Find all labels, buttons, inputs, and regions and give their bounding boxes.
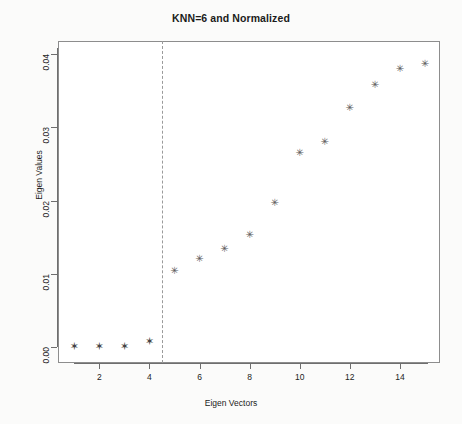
data-point: ✳ xyxy=(370,80,379,89)
x-tick-1 xyxy=(149,363,150,369)
x-tick-5 xyxy=(350,363,351,369)
data-point: ✶ xyxy=(120,342,129,351)
x-tick-label-1: 4 xyxy=(134,372,164,382)
x-tick-label-6: 14 xyxy=(385,372,415,382)
y-tick-label-2: 0.02 xyxy=(40,201,52,247)
data-point: ✳ xyxy=(245,230,254,239)
data-point: ✶ xyxy=(70,342,79,351)
y-tick-label-0: 0.00 xyxy=(40,347,52,393)
data-point: ✳ xyxy=(420,59,429,68)
chart-title: KNN=6 and Normalized xyxy=(0,12,462,24)
y-axis-title: Eigen Values xyxy=(34,150,44,199)
x-tick-label-3: 8 xyxy=(235,372,265,382)
x-axis-line xyxy=(74,363,428,364)
data-point: ✳ xyxy=(220,244,229,253)
x-tick-label-5: 12 xyxy=(335,372,365,382)
data-point: ✳ xyxy=(345,103,354,112)
data-point: ✶ xyxy=(95,342,104,351)
x-tick-0 xyxy=(99,363,100,369)
x-tick-2 xyxy=(200,363,201,369)
eigengap-threshold-line xyxy=(162,41,163,363)
x-tick-3 xyxy=(250,363,251,369)
y-tick-label-4: 0.04 xyxy=(40,54,52,100)
data-point: ✳ xyxy=(395,64,404,73)
x-tick-label-4: 10 xyxy=(285,372,315,382)
chart-figure: KNN=6 and Normalized 0.000.010.020.030.0… xyxy=(0,0,462,424)
data-point: ✳ xyxy=(195,254,204,263)
data-point: ✳ xyxy=(320,137,329,146)
data-point: ✳ xyxy=(170,266,179,275)
x-tick-label-2: 6 xyxy=(185,372,215,382)
x-axis-title: Eigen Vectors xyxy=(0,398,462,408)
y-tick-label-1: 0.01 xyxy=(40,274,52,320)
y-axis-line xyxy=(57,48,58,347)
x-tick-6 xyxy=(400,363,401,369)
x-tick-4 xyxy=(300,363,301,369)
data-point: ✶ xyxy=(145,337,154,346)
x-tick-label-0: 2 xyxy=(84,372,114,382)
data-point: ✳ xyxy=(295,148,304,157)
data-point: ✳ xyxy=(270,198,279,207)
plot-frame xyxy=(58,41,440,363)
